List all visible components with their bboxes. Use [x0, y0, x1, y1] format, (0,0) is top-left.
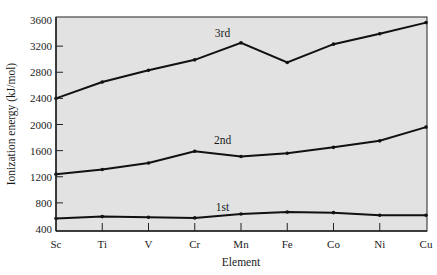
x-tick-label: V	[145, 238, 153, 250]
data-point	[147, 215, 151, 219]
y-tick-label: 2000	[30, 119, 53, 131]
data-point	[239, 41, 243, 45]
data-point	[239, 155, 243, 159]
x-tick-label: Sc	[51, 238, 62, 250]
y-tick-label: 400	[36, 223, 53, 235]
x-tick-label: Ni	[374, 238, 385, 250]
series-label-3rd: 3rd	[215, 27, 231, 39]
y-tick-label: 2400	[30, 92, 53, 104]
data-point	[147, 68, 151, 72]
y-tick-label: 3200	[30, 40, 53, 52]
ionization-energy-chart: 4008001200160020002400280032003600 ScTiV…	[0, 0, 437, 275]
data-point	[332, 211, 336, 215]
data-point	[193, 58, 197, 62]
data-point	[424, 21, 428, 25]
data-point	[100, 80, 104, 84]
y-tick-label: 3600	[30, 14, 53, 26]
data-point	[285, 151, 289, 155]
data-point	[239, 212, 243, 216]
data-point	[424, 125, 428, 129]
data-point	[378, 139, 382, 143]
y-tick-label: 1600	[30, 145, 53, 157]
data-point	[378, 213, 382, 217]
data-point	[332, 146, 336, 150]
x-tick-label: Cu	[420, 238, 433, 250]
x-tick-label: Ti	[98, 238, 107, 250]
data-point	[193, 216, 197, 220]
x-tick-label: Mn	[233, 238, 249, 250]
y-tick-label: 800	[36, 197, 53, 209]
data-point	[332, 42, 336, 46]
data-point	[424, 213, 428, 217]
x-tick-label: Co	[327, 238, 340, 250]
data-point	[285, 61, 289, 65]
y-axis-title: Ionization energy (kJ/mol)	[5, 63, 18, 186]
data-point	[147, 161, 151, 165]
series-label-1st: 1st	[216, 201, 230, 213]
x-axis-title: Element	[222, 256, 261, 268]
y-tick-label: 1200	[30, 171, 53, 183]
data-point	[193, 149, 197, 153]
series-label-2nd: 2nd	[214, 134, 232, 146]
y-tick-label: 2800	[30, 66, 53, 78]
data-point	[100, 168, 104, 172]
plot-area	[56, 17, 427, 231]
data-point	[100, 215, 104, 219]
x-tick-label: Fe	[282, 238, 293, 250]
data-point	[378, 32, 382, 36]
data-point	[285, 210, 289, 214]
x-tick-label: Cr	[189, 238, 200, 250]
